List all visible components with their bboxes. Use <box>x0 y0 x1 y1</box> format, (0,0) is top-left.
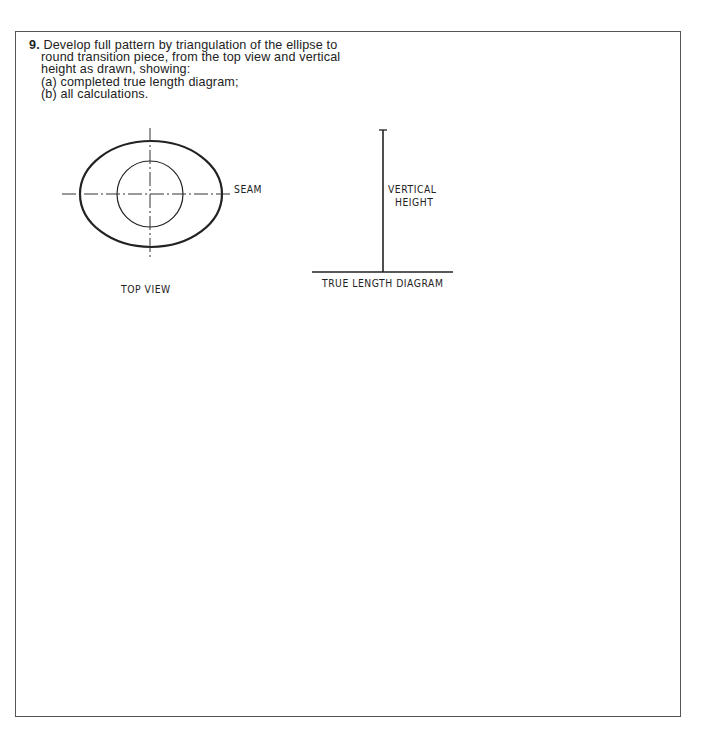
true-length-diagram-caption: TRUE LENGTH DIAGRAM <box>322 277 443 289</box>
seam-label: SEAM <box>234 183 262 195</box>
technical-drawing <box>0 0 714 732</box>
height-label: HEIGHT <box>395 196 433 208</box>
vertical-label: VERTICAL <box>388 183 436 195</box>
top-view-caption: TOP VIEW <box>121 283 171 295</box>
top-view-drawing <box>62 128 230 258</box>
